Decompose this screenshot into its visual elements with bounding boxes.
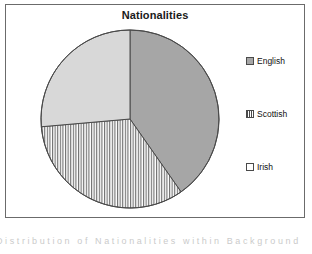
caption-strip: Distribution of Nationalities within Bac… <box>0 236 312 254</box>
legend-item-irish[interactable]: Irish <box>246 161 308 173</box>
chart-frame: Nationalities <box>5 4 305 218</box>
pie-svg <box>39 28 221 210</box>
legend-swatch-irish-icon <box>246 163 254 171</box>
caption-text: Distribution of Nationalities within Bac… <box>0 236 312 246</box>
legend-swatch-scottish-icon <box>246 110 254 118</box>
legend-label-irish: Irish <box>257 163 273 172</box>
chart-legend: English Scottish Irish <box>246 55 308 214</box>
legend-label-english: English <box>257 57 285 66</box>
legend-item-scottish[interactable]: Scottish <box>246 108 308 120</box>
legend-item-english[interactable]: English <box>246 55 308 67</box>
pie-slice-scottish[interactable] <box>41 30 130 127</box>
legend-swatch-english-icon <box>246 57 254 65</box>
legend-label-scottish: Scottish <box>257 110 287 119</box>
chart-title: Nationalities <box>6 9 304 21</box>
pie-chart <box>39 28 221 210</box>
